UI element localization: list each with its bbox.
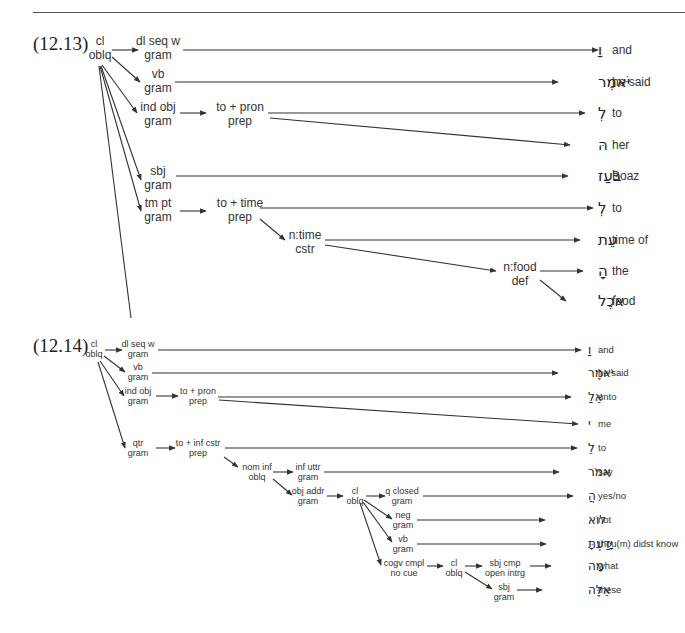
hebrew-word: וַ (597, 41, 602, 59)
node-tmpt: tm ptgram (144, 196, 172, 224)
arrow-edge (363, 502, 392, 542)
arrow-edge (104, 356, 125, 372)
node-sbj: sbjgram (494, 582, 515, 602)
node-infuttr: inf uttrgram (295, 462, 320, 482)
hebrew-word: לְ (598, 104, 607, 122)
gloss-text: food (612, 294, 635, 308)
node-qtr: qtrgram (128, 438, 149, 458)
node-qclosed: q closedgram (385, 486, 419, 506)
node-sbjcmp: sbj cmpopen intrg (485, 558, 525, 578)
node-indobj: ind objgram (125, 386, 152, 406)
node-neg: neggram (393, 510, 414, 530)
gloss-text: these (598, 584, 621, 595)
node-dlseq: dl seq wgram (121, 339, 155, 359)
node-nominf: nom infoblq (242, 462, 272, 482)
example-12-13: (12.13)cloblqdl seq wgramvbgramind objgr… (33, 33, 651, 318)
example-number: (12.14) (33, 335, 88, 357)
node-vb: vbgram (144, 67, 171, 95)
gloss-text: Boaz (612, 169, 639, 183)
node-dlseq: dl seq wgram (136, 34, 180, 62)
arrow-edge (224, 457, 238, 467)
hebrew-word: הֲ (588, 489, 596, 503)
node-cogv: cogv cmplno cue (384, 558, 425, 578)
gloss-text: time of (612, 233, 649, 247)
arrow-edge (540, 280, 566, 301)
node-vb: vbgram (128, 362, 149, 382)
node-cl2: cloblq (346, 486, 363, 506)
example-12-14: (12.14)cloblqdl seq wgramvbgramind objgr… (33, 335, 678, 602)
arrow-edge (273, 479, 292, 495)
arrow-edge (219, 400, 578, 424)
node-nfood: n:fooddef (503, 260, 536, 288)
hebrew-word: י (588, 417, 591, 431)
syntax-diagrams: (12.13)cloblqdl seq wgramvbgramind objgr… (0, 0, 685, 633)
gloss-text: he said (598, 367, 629, 378)
gloss-text: he said (612, 75, 651, 89)
arrow-edge (102, 65, 137, 113)
node-root: cloblq (89, 34, 112, 62)
gloss-text: unto (598, 391, 617, 402)
arrow-edge (100, 66, 141, 211)
node-cl3: cloblq (445, 558, 462, 578)
gloss-text: me (598, 418, 611, 429)
arrow-edge (270, 118, 570, 145)
gloss-text: say (598, 466, 613, 477)
node-sbj: sbjgram (144, 164, 171, 192)
hebrew-word: וַ (588, 343, 592, 357)
gloss-text: and (598, 344, 614, 355)
gloss-text: what (597, 560, 618, 571)
line-edge (99, 66, 131, 318)
node-topron: to + pronprep (180, 386, 216, 406)
hebrew-word: הָ (598, 262, 608, 280)
arrow-edge (101, 66, 141, 180)
node-totime: to + timeprep (217, 196, 264, 224)
gloss-text: the (612, 264, 629, 278)
gloss-text: thou(m) didst know (598, 538, 678, 549)
arrow-edge (260, 219, 285, 240)
node-topron: to + pronprep (216, 100, 264, 128)
gloss-text: to (612, 201, 622, 215)
gloss-text: to (598, 442, 606, 453)
gloss-text: to (612, 106, 622, 120)
arrow-edge (325, 245, 496, 271)
hebrew-word: לְ (598, 199, 607, 217)
hebrew-word: הּ (598, 136, 608, 154)
node-indobj: ind objgram (140, 100, 175, 128)
hebrew-word: לֵ (588, 441, 595, 455)
example-number: (12.13) (33, 33, 88, 55)
gloss-text: and (612, 43, 632, 57)
gloss-text: not (598, 514, 612, 525)
node-vb2: vbgram (393, 534, 414, 554)
node-objaddr: obj addrgram (292, 486, 325, 506)
arrow-edge (112, 57, 140, 82)
node-ntime: n:timecstr (289, 228, 322, 256)
node-toinf: to + inf cstrprep (176, 438, 220, 458)
gloss-text: yes/no (598, 490, 626, 501)
gloss-text: her (612, 138, 629, 152)
arrow-edge (98, 362, 125, 448)
